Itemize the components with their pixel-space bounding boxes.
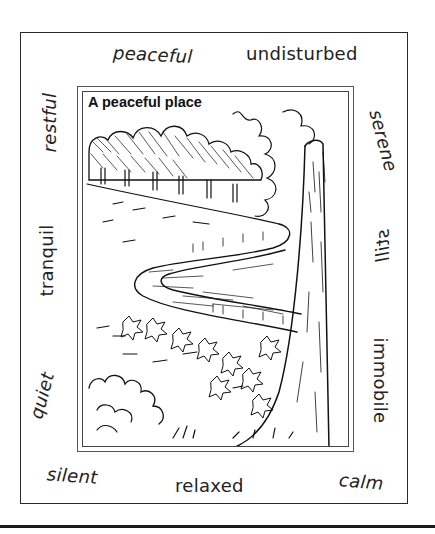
word-tranquil: tranquil	[36, 224, 57, 296]
illustration-panel: A peaceful place	[82, 91, 349, 447]
word-silent: silent	[46, 463, 98, 487]
word-restful: restful	[39, 93, 60, 153]
word-calm: calm	[338, 469, 384, 494]
bottom-divider	[0, 525, 435, 528]
word-relaxed: relaxed	[175, 475, 244, 496]
word-peaceful: peaceful	[113, 42, 194, 67]
word-immobile: immobile	[370, 338, 391, 424]
river-landscape-illustration	[83, 92, 349, 447]
word-still: still	[372, 229, 393, 262]
word-undisturbed: undisturbed	[246, 43, 358, 64]
